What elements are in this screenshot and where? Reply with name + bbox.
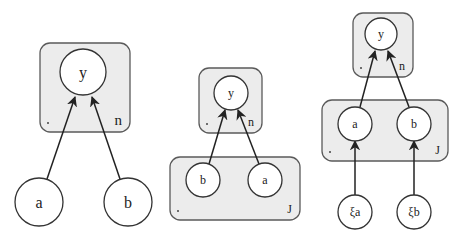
node-a: a bbox=[338, 107, 372, 141]
node-a: a bbox=[15, 178, 63, 226]
diagram_2-plate-j-label: J bbox=[287, 202, 292, 216]
node-b: b bbox=[186, 163, 220, 197]
node-y: y bbox=[214, 76, 248, 110]
node-xi_a-label: ξa bbox=[350, 205, 361, 219]
node-a: a bbox=[248, 163, 282, 197]
diagram_3-plate-j-label: J bbox=[435, 143, 440, 157]
diagram_3-plate-n-label: n bbox=[399, 59, 405, 73]
node-y-label: y bbox=[79, 64, 87, 82]
node-xi_a: ξa bbox=[338, 195, 372, 229]
plate-corner-dot bbox=[329, 151, 331, 153]
node-a-label: a bbox=[35, 194, 42, 211]
diagram_1-plate-n-label: n bbox=[115, 112, 123, 128]
node-b: b bbox=[104, 178, 152, 226]
node-b: b bbox=[397, 107, 431, 141]
node-y-label: y bbox=[228, 86, 234, 100]
diagram-canvas: nJnJn yabybayabξaξb bbox=[0, 0, 464, 240]
node-y: y bbox=[365, 18, 397, 50]
plate-corner-dot bbox=[206, 123, 208, 125]
node-a-label: a bbox=[352, 117, 358, 131]
node-y-label: y bbox=[378, 27, 384, 41]
node-xi_b-label: ξb bbox=[408, 205, 419, 219]
node-a-label: a bbox=[262, 173, 268, 187]
node-b-label: b bbox=[124, 194, 132, 211]
plate-corner-dot bbox=[47, 122, 49, 124]
node-xi_b: ξb bbox=[397, 195, 431, 229]
node-b-label: b bbox=[200, 173, 206, 187]
plate-corner-dot bbox=[360, 67, 362, 69]
plate-corner-dot bbox=[177, 210, 179, 212]
diagram_2-plate-n-label: n bbox=[248, 115, 254, 129]
node-y: y bbox=[60, 49, 106, 95]
node-b-label: b bbox=[411, 117, 417, 131]
